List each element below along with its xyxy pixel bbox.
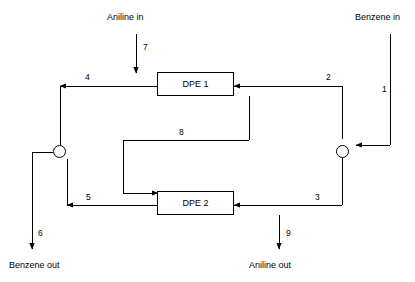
unit-dpe-1-label: DPE 1 (182, 79, 208, 89)
node-right-splitter (336, 145, 349, 158)
unit-dpe-1[interactable]: DPE 1 (157, 72, 234, 96)
label-stream-7: 7 (143, 42, 148, 52)
label-stream-4: 4 (85, 72, 90, 82)
unit-dpe-2[interactable]: DPE 2 (157, 191, 234, 215)
label-aniline-out: Aniline out (249, 260, 291, 270)
label-stream-8: 8 (179, 127, 184, 137)
label-stream-6: 6 (38, 228, 43, 238)
node-left-mixer (53, 145, 66, 158)
label-benzene-in: Benzene in (355, 12, 400, 22)
label-stream-3: 3 (315, 192, 320, 202)
process-flow-diagram: DPE 1 DPE 2 Aniline in Benzene in Benzen… (0, 0, 415, 282)
label-stream-5: 5 (86, 192, 91, 202)
label-stream-9: 9 (286, 228, 291, 238)
label-stream-1: 1 (382, 84, 387, 94)
label-aniline-in: Aniline in (107, 12, 144, 22)
label-benzene-out: Benzene out (9, 260, 60, 270)
unit-dpe-2-label: DPE 2 (182, 198, 208, 208)
diagram-lines (0, 0, 415, 282)
label-stream-2: 2 (326, 72, 331, 82)
